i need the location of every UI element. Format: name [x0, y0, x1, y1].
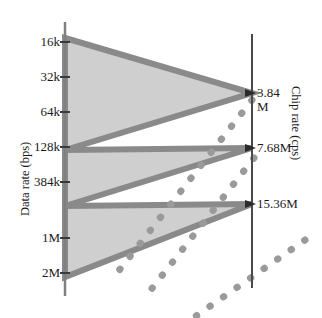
data-rate-chip-rate-diagram: 16k 32k 64k 128k 384k 1M 2M 3.84 M 7.68M… [0, 0, 322, 318]
right-tick-label-384m: 3.84 M [257, 86, 280, 114]
chip-rate-axis-title: Chip rate (cps) [288, 86, 303, 160]
left-tick-label-2m: 2M [42, 266, 60, 279]
left-tick-label-16k: 16k [41, 35, 61, 48]
left-tick-label-64k: 64k [41, 105, 61, 118]
left-tick-label-1m: 1M [42, 231, 60, 244]
dotted-extension-lower [196, 240, 305, 316]
wedge-layer [65, 38, 252, 277]
left-tick-label-32k: 32k [41, 70, 61, 83]
right-tick-label-384m-line1: 3.84 [257, 86, 280, 100]
left-tick-label-128k: 128k [34, 140, 60, 153]
right-tick-label-384m-line2: M [257, 100, 280, 114]
right-axis-arrows [245, 89, 256, 208]
wedge-3840k [65, 38, 252, 150]
left-tick-label-384k: 384k [34, 175, 60, 188]
data-rate-axis-title: Data rate (bps) [18, 142, 33, 216]
right-tick-label-1536m: 15.36M [257, 197, 298, 211]
right-tick-label-768m: 7.68M [257, 141, 291, 155]
